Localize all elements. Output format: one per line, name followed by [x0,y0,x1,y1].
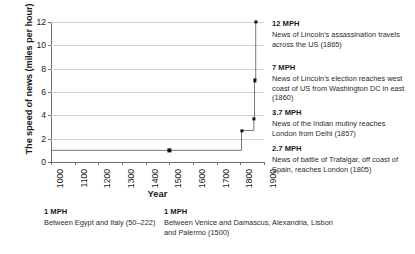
bottom-annotation-1-head: 1 MPH [44,207,159,217]
plot-area: 024681012 100011001200130014001500160017… [51,22,264,162]
right-annotation-1-head: 12 MPH [272,19,411,29]
y-tick-label: 8 [41,64,46,74]
x-tick-mark [51,162,52,165]
bottom-annotation-1-body: Between Egypt and Italy (50–222) [44,218,159,228]
x-tick-label: 1700 [221,169,231,188]
data-point-marker [254,20,257,23]
x-tick-mark [193,162,194,165]
x-axis-line [51,162,264,163]
series-line-speed-of-news [51,22,264,162]
y-tick-label: 12 [36,17,46,27]
x-axis-title: Year [51,188,264,199]
data-point-marker [253,79,256,82]
x-tick-label: 1100 [79,169,89,187]
right-annotation-2: 7 MPHNews of Lincoln's election reaches … [272,63,411,103]
series-path [51,22,256,150]
bottom-annotation-2-head: 1 MPH [164,207,344,217]
right-annotation-1: 12 MPHNews of Lincoln's assassination tr… [272,19,411,49]
right-annotation-1-body: News of Lincoln's assassination travels … [272,30,411,49]
bottom-annotation-1: 1 MPH Between Egypt and Italy (50–222) [44,207,159,228]
right-annotation-4-body: News of battle of Trafalgar, off coast o… [272,155,411,174]
y-tick-label: 10 [36,40,46,50]
y-tick-label: 4 [41,110,46,120]
x-tick-mark [169,162,170,165]
x-tick-mark [146,162,147,165]
y-tick-label: 6 [41,87,46,97]
right-annotation-3-head: 3.7 MPH [272,108,411,118]
x-tick-mark [122,162,123,165]
x-tick-label: 1800 [244,169,254,188]
bottom-annotation-2: 1 MPH Between Venice and Damascus, Alexa… [164,207,344,237]
right-annotation-2-body: News of Lincoln's election reaches west … [272,74,411,103]
x-tick-mark [75,162,76,165]
data-point-marker [168,149,171,152]
plot-inner: 024681012 100011001200130014001500160017… [51,22,264,162]
right-annotation-3: 3.7 MPHNews of the Indian mutiny reaches… [272,108,411,138]
right-annotation-4: 2.7 MPHNews of battle of Trafalgar, off … [272,144,411,174]
x-tick-label: 1400 [150,169,160,188]
y-tick-label: 0 [41,157,46,167]
bottom-annotation-2-body: Between Venice and Damascus, Alexandria,… [164,218,344,237]
right-annotation-2-head: 7 MPH [272,63,411,73]
data-point-marker [240,129,243,132]
x-tick-label: 1300 [126,169,136,188]
x-tick-mark [240,162,241,165]
data-point-marker [252,117,255,120]
chart-figure: The speed of news (miles per hour) 02468… [0,0,415,254]
x-tick-mark [217,162,218,165]
y-tick-label: 2 [41,134,46,144]
x-tick-mark [264,162,265,165]
right-annotation-4-head: 2.7 MPH [272,144,411,154]
x-tick-label: 1000 [55,169,65,188]
x-tick-label: 1200 [102,169,112,188]
right-annotation-3-body: News of the Indian mutiny reaches London… [272,119,411,138]
x-tick-label: 1500 [173,169,183,188]
x-tick-label: 1600 [197,169,207,188]
y-axis-title: The speed of news (miles per hour) [24,0,34,159]
x-tick-mark [98,162,99,165]
